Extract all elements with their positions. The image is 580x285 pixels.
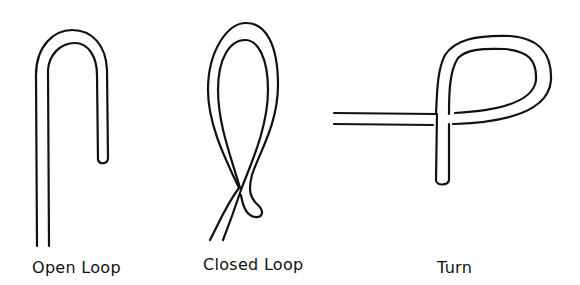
rope-loops-diagram: Open Loop Closed Loop Turn [0,0,580,285]
open-loop-figure [36,30,108,246]
turn-figure [334,36,551,185]
diagram-canvas [0,0,580,285]
turn-label: Turn [437,258,472,277]
closed-loop-label: Closed Loop [203,255,304,274]
open-loop-label: Open Loop [32,258,121,277]
closed-loop-figure [208,23,278,240]
